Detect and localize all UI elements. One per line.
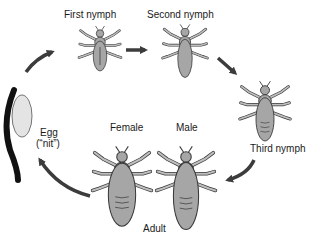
adult-label: Adult	[143, 223, 166, 234]
male-louse-icon	[157, 146, 216, 229]
egg-nit-icon	[12, 95, 32, 137]
female-louse-icon	[93, 146, 152, 226]
third-nymph-label: Third nymph	[250, 143, 306, 154]
first-nymph-icon	[79, 26, 121, 71]
female-label: Female	[110, 122, 143, 133]
first-nymph-label: First nymph	[64, 9, 116, 20]
egg-sublabel: (“nit”)	[36, 138, 60, 149]
egg-label: Egg	[40, 127, 58, 138]
arrow-third-to-adult	[228, 160, 254, 180]
second-nymph-icon	[163, 24, 208, 77]
arrow-second-to-third	[218, 58, 235, 73]
arrow-egg-to-first	[26, 52, 52, 72]
male-label: Male	[176, 122, 198, 133]
second-nymph-label: Second nymph	[147, 9, 214, 20]
life-cycle-diagram	[0, 0, 312, 239]
third-nymph-icon	[240, 81, 290, 141]
arrow-adult-to-egg	[40, 160, 90, 196]
